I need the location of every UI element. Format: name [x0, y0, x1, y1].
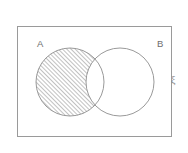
- venn-diagram-canvas: A B ξ: [0, 0, 188, 153]
- venn-diagram-figure: A B ξ: [0, 0, 188, 153]
- universal-set-label: ξ: [171, 74, 176, 86]
- set-a-label: A: [37, 38, 44, 49]
- set-b-label: B: [157, 38, 163, 49]
- shaded-region-a-minus-b: [0, 0, 188, 153]
